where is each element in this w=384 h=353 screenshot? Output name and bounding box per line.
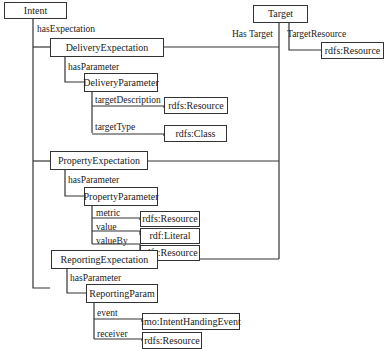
target-type-type-label: rdfs:Class [176, 127, 216, 141]
property-parameter-node: PropertyParameter [84, 187, 158, 206]
target-resource-type-node: rdfs:Resource [321, 42, 384, 59]
value-type-node: rdf:Literal [140, 228, 200, 244]
reporting-param-label: ReportingParam [89, 287, 155, 301]
event-type-label: imo:IntentHandingEvent [141, 315, 240, 329]
value-label: value [96, 222, 117, 233]
target-description-type-node: rdfs:Resource [164, 97, 228, 114]
event-label: event [97, 308, 118, 319]
has-expectation-label: hasExpectation [37, 24, 95, 35]
property-expectation-node: PropertyExpectation [50, 151, 148, 170]
delivery-expectation-label: DeliveryExpectation [66, 41, 149, 55]
target-type-label: targetType [95, 122, 135, 133]
reporting-has-parameter-label: hasParameter [70, 273, 121, 284]
has-target-label: Has Target [232, 29, 273, 40]
target-node: Target [253, 5, 308, 23]
ontology-diagram: Intent Target rdfs:Resource hasExpectati… [0, 0, 384, 353]
property-parameter-label: PropertyParameter [84, 190, 159, 204]
reporting-param-node: ReportingParam [86, 284, 158, 303]
property-has-parameter-label: hasParameter [68, 175, 119, 186]
receiver-type-label: rdfs:Resource [144, 334, 200, 348]
target-type-type-node: rdfs:Class [164, 125, 227, 142]
target-label: Target [268, 7, 293, 21]
target-description-type-label: rdfs:Resource [168, 99, 224, 113]
metric-type-node: rdfs:Resource [140, 211, 200, 227]
receiver-label: receiver [97, 329, 128, 340]
delivery-parameter-label: DeliveryParameter [83, 76, 159, 90]
delivery-has-parameter-label: hasParameter [68, 62, 119, 73]
reporting-expectation-label: ReportingExpectation [61, 253, 149, 267]
target-resource-label: TargetResource [287, 29, 346, 40]
intent-label: Intent [24, 4, 47, 18]
metric-label: metric [96, 208, 120, 219]
event-type-node: imo:IntentHandingEvent [142, 313, 240, 330]
target-resource-type-label: rdfs:Resource [325, 44, 381, 58]
value-type-label: rdf:Literal [149, 229, 190, 243]
intent-node: Intent [4, 2, 67, 19]
metric-type-label: rdfs:Resource [142, 212, 198, 226]
receiver-type-node: rdfs:Resource [142, 332, 202, 349]
delivery-parameter-node: DeliveryParameter [84, 73, 158, 92]
property-expectation-label: PropertyExpectation [58, 154, 140, 168]
target-description-label: targetDescription [95, 95, 161, 106]
delivery-expectation-node: DeliveryExpectation [50, 38, 164, 57]
reporting-expectation-node: ReportingExpectation [51, 250, 158, 269]
value-by-label: valueBy [96, 236, 128, 247]
